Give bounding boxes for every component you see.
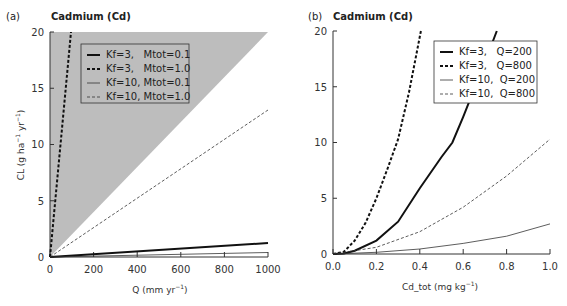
x-tick-label: 0.0	[325, 261, 341, 272]
figure: (a) Cadmium (Cd) 0 5 10 15 20 0	[0, 0, 567, 306]
legend-item: Kf=3, Q=200	[459, 46, 532, 57]
panel-a-label: (a)	[6, 11, 20, 22]
x-axis-label: Cd_tot (mg kg−1)	[402, 280, 478, 292]
x-tick-label: 0	[47, 264, 53, 275]
series-kf10-q200	[333, 224, 550, 254]
x-tick-label: 200	[84, 264, 103, 275]
legend-item: Kf=10, Mtot=0.1	[106, 77, 190, 88]
x-tick-label: 400	[128, 264, 147, 275]
legend: Kf=3, Q=200 Kf=3, Q=800 Kf=10, Q=200 Kf=…	[434, 41, 537, 103]
y-tick-label: 0	[321, 249, 327, 260]
x-tick-label: 800	[215, 264, 234, 275]
y-tick-label: 15	[314, 82, 327, 93]
panel-a-title: Cadmium (Cd)	[51, 11, 131, 22]
x-tick-label: 0.6	[455, 261, 471, 272]
legend-item: Kf=3, Mtot=0.1	[106, 49, 190, 60]
y-tick-label: 20	[31, 27, 44, 38]
legend-item: Kf=10, Q=200	[459, 74, 535, 85]
x-tick-label: 600	[171, 264, 190, 275]
y-ticks	[333, 31, 337, 254]
x-axis-label: Q (mm yr−1)	[132, 283, 187, 295]
y-tick-label: 5	[321, 193, 327, 204]
x-tick-label: 0.4	[412, 261, 428, 272]
x-ticks	[333, 249, 550, 254]
panel-b-title: Cadmium (Cd)	[333, 11, 413, 22]
legend-item: Kf=3, Mtot=1.0	[106, 63, 190, 74]
y-tick-label: 15	[31, 83, 44, 94]
y-tick-label: 0	[38, 252, 44, 263]
panel-b: (b) Cadmium (Cd) 0 5 10 15 20 0.0 0.2 0.…	[308, 11, 558, 292]
panel-a: (a) Cadmium (Cd) 0 5 10 15 20 0	[6, 11, 281, 295]
x-tick-label: 0.8	[499, 261, 515, 272]
x-tick-label: 1000	[255, 264, 280, 275]
panel-b-label: (b)	[308, 11, 322, 22]
y-tick-label: 10	[31, 139, 44, 150]
y-tick-label: 5	[38, 196, 44, 207]
legend-item: Kf=10, Q=800	[459, 88, 535, 99]
y-axis-label: CL (g ha−1 yr−1)	[14, 110, 26, 181]
legend-item: Kf=10, Mtot=1.0	[106, 91, 190, 102]
y-tick-label: 20	[314, 26, 327, 37]
x-tick-label: 1.0	[542, 261, 558, 272]
y-tick-label: 10	[314, 137, 327, 148]
x-tick-label: 0.2	[368, 261, 384, 272]
legend: Kf=3, Mtot=0.1 Kf=3, Mtot=1.0 Kf=10, Mto…	[81, 44, 190, 103]
legend-item: Kf=3, Q=800	[459, 60, 532, 71]
series-kf3-q800	[333, 31, 421, 254]
